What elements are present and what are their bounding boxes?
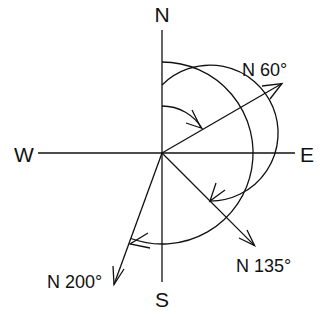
ray-n60	[162, 84, 282, 154]
cardinal-east: E	[300, 143, 314, 166]
compass-diagram: N E S W N 60° N 135° N 200°	[0, 0, 330, 317]
arc-arrow-200-icon	[130, 233, 150, 248]
bearing-label-n60: N 60°	[242, 60, 287, 80]
arc-arrow-135-icon	[210, 183, 225, 201]
bearing-label-n135: N 135°	[236, 256, 291, 276]
cardinal-south: S	[155, 288, 169, 311]
bearing-label-n200: N 200°	[47, 272, 102, 292]
ray-n200	[114, 153, 162, 285]
diagram-svg: N E S W N 60° N 135° N 200°	[0, 0, 330, 317]
arc-arrow-60-icon	[186, 110, 201, 128]
arc-135	[162, 65, 278, 201]
cardinal-north: N	[154, 3, 169, 26]
cardinal-west: W	[14, 143, 34, 166]
